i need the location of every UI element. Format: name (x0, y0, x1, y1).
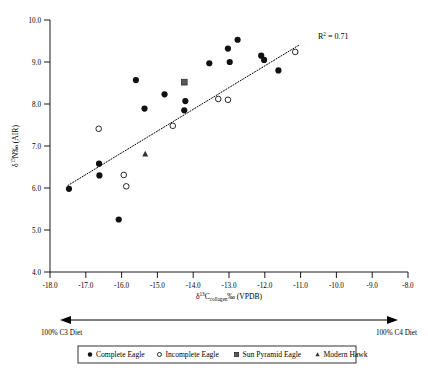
series-sun-pyramid-eagle (181, 79, 187, 85)
diet-arrow-head-left (60, 316, 71, 324)
point-complete-eagle (181, 107, 187, 113)
svg-text:δ15N‰ (AIR): δ15N‰ (AIR) (10, 125, 20, 167)
point-incomplete-eagle (123, 184, 129, 190)
x-tick-label: -13.0 (222, 282, 237, 290)
point-complete-eagle (96, 172, 102, 178)
x-axis-ticks: -18.0-17.0-16.0-15.0-14.0-13.0-12.0-11.0… (43, 272, 415, 290)
x-tick-label: -14.0 (186, 282, 201, 290)
legend-label: Modern Hawk (324, 350, 368, 359)
x-tick-label: -18.0 (43, 282, 58, 290)
x-tick-label: -8.0 (402, 282, 414, 290)
axes (50, 20, 408, 272)
point-incomplete-eagle (292, 49, 298, 55)
point-complete-eagle (133, 77, 139, 83)
point-incomplete-eagle (96, 126, 102, 132)
point-complete-eagle (225, 45, 231, 51)
r-squared-value: = 0.71 (326, 32, 349, 41)
point-complete-eagle (261, 57, 267, 63)
y-tick-label: 10.0 (28, 17, 41, 25)
legend-label: Incomplete Eagle (165, 350, 219, 359)
x-tick-label: -9.0 (367, 282, 379, 290)
legend-label: Complete Eagle (96, 350, 145, 359)
diet-label-c4: 100% C4 Diet (376, 329, 417, 337)
point-incomplete-eagle (157, 352, 161, 356)
y-tick-label: 7.0 (32, 143, 41, 151)
point-complete-eagle (116, 216, 122, 222)
point-complete-eagle (206, 60, 212, 66)
y-axis-ticks: 4.05.06.07.08.09.010.0 (28, 17, 50, 277)
legend-item-modern-hawk[interactable]: Modern Hawk (315, 350, 367, 359)
point-complete-eagle (88, 352, 92, 356)
point-complete-eagle (275, 67, 281, 73)
y-tick-label: 6.0 (32, 185, 41, 193)
y-tick-label: 4.0 (32, 269, 41, 277)
point-incomplete-eagle (215, 96, 221, 102)
legend-item-sun-pyramid-eagle[interactable]: Sun Pyramid Eagle (235, 350, 302, 359)
x-tick-label: -16.0 (114, 282, 129, 290)
series-incomplete-eagle (96, 49, 298, 189)
x-axis-title: δ13Ccollagen‰ (VPDB) (196, 291, 263, 302)
legend: Complete EagleIncomplete EagleSun Pyrami… (78, 346, 368, 363)
diet-label-c3: 100% C3 Diet (41, 329, 82, 337)
point-modern-hawk (315, 352, 319, 356)
y-axis-title: δ15N‰ (AIR) (10, 125, 20, 167)
diet-arrow-head-right (387, 316, 398, 324)
trendline-dotted (68, 45, 299, 185)
legend-label: Sun Pyramid Eagle (243, 350, 302, 359)
series-modern-hawk (142, 151, 148, 157)
point-sun-pyramid-eagle (235, 352, 239, 356)
point-complete-eagle (96, 161, 102, 167)
point-complete-eagle (141, 106, 147, 112)
legend-item-complete-eagle[interactable]: Complete Eagle (88, 350, 146, 359)
point-incomplete-eagle (225, 97, 231, 103)
point-complete-eagle (234, 37, 240, 43)
y-tick-label: 9.0 (32, 59, 41, 67)
x-axis-subscript: collagen (210, 296, 228, 302)
x-tick-label: -15.0 (150, 282, 165, 290)
point-modern-hawk (142, 151, 148, 157)
x-tick-label: -17.0 (78, 282, 93, 290)
svg-text:δ13Ccollagen‰ (VPDB): δ13Ccollagen‰ (VPDB) (196, 291, 263, 302)
point-incomplete-eagle (170, 123, 176, 129)
scatter-plot-figure: 4.05.06.07.08.09.010.0 -18.0-17.0-16.0-1… (0, 0, 428, 379)
x-axis-units: ‰ (VPDB) (227, 292, 262, 301)
legend-items: Complete EagleIncomplete EagleSun Pyrami… (88, 350, 368, 359)
y-tick-label: 8.0 (32, 101, 41, 109)
legend-item-incomplete-eagle[interactable]: Incomplete Eagle (157, 350, 219, 359)
chart-canvas: 4.05.06.07.08.09.010.0 -18.0-17.0-16.0-1… (0, 0, 428, 379)
y-tick-label: 5.0 (32, 227, 41, 235)
point-sun-pyramid-eagle (181, 79, 187, 85)
x-tick-label: -10.0 (329, 282, 344, 290)
y-axis-units: ‰ (AIR) (11, 125, 20, 153)
data-point-layer (66, 37, 298, 223)
point-complete-eagle (161, 91, 167, 97)
x-tick-label: -11.0 (293, 282, 308, 290)
r-squared-annotation: R2 = 0.71 (318, 31, 348, 41)
point-complete-eagle (182, 98, 188, 104)
point-complete-eagle (227, 59, 233, 65)
point-incomplete-eagle (121, 172, 127, 178)
point-complete-eagle (66, 186, 72, 192)
x-tick-label: -12.0 (257, 282, 272, 290)
diet-gradient-arrow: 100% C3 Diet 100% C4 Diet (41, 316, 417, 337)
